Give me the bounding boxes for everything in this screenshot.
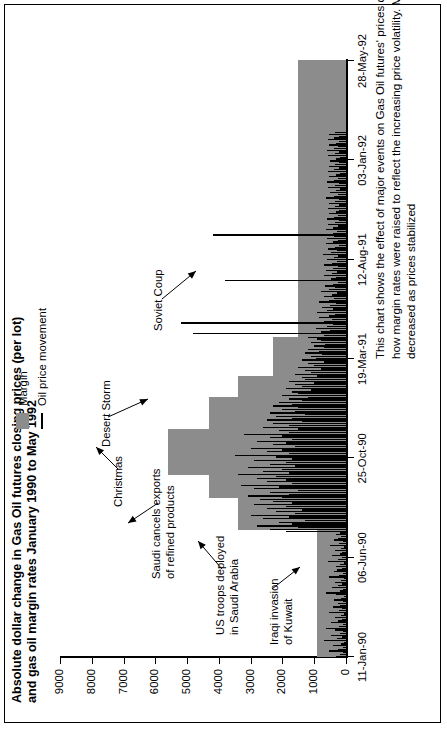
price-movement-bar [321,291,346,292]
price-movement-bar [279,402,346,403]
price-movement-bar [289,472,346,473]
price-movement-bar [273,405,346,406]
price-movement-bar [314,365,346,366]
price-movement-bar [292,483,346,484]
price-movement-bar [295,374,346,375]
price-movement-bar [308,349,346,350]
x-axis-tick [348,557,354,558]
price-movement-bar [338,538,346,539]
price-movement-bar [225,280,346,281]
plot-area [60,61,346,657]
price-movement-bar [335,222,346,223]
price-movement-bar [305,352,346,353]
price-movement-bar [340,591,346,592]
price-movement-bar [311,342,346,343]
price-movement-bar [339,575,346,576]
price-movement-bar [326,270,346,271]
price-movement-bar [298,367,346,368]
y-axis-tick-label: 6000 [148,669,160,709]
x-axis-tick [348,60,354,61]
price-movement-bar [343,631,346,632]
x-axis-tick [348,457,354,458]
y-axis-tick [92,657,93,664]
y-axis-tick-label: 3000 [244,669,256,709]
price-movement-bar [324,264,346,265]
price-movement-bar [340,532,346,533]
price-movement-bar [292,391,346,392]
price-movement-bar [341,643,346,644]
price-movement-bar [337,638,346,639]
price-movement-bar [341,580,346,581]
price-movement-bar [302,377,346,378]
price-movement-bar [340,188,346,189]
price-movement-bar [337,569,346,570]
price-movement-bar [263,518,346,519]
price-movement-bar [333,268,346,269]
price-movement-bar [289,494,346,495]
price-movement-bar [340,605,346,606]
price-movement-bar [339,141,346,142]
price-movement-bar [282,449,346,450]
price-movement-bar [329,315,346,316]
price-movement-bar [329,300,346,301]
price-movement-bar [324,347,346,348]
price-movement-bar [241,485,346,486]
price-movement-bar [326,197,346,198]
price-movement-bar [338,146,346,147]
price-movement-bar [311,372,346,373]
y-axis-tick-label: 9000 [53,669,65,709]
price-movement-bar [334,257,346,258]
price-movement-bar [328,248,346,249]
price-movement-bar [339,610,346,611]
price-movement-bar [319,351,346,352]
price-movement-bar [314,382,346,383]
price-movement-bar [270,529,346,530]
price-movement-bar [333,606,346,607]
price-movement-bar [329,289,346,290]
price-movement-bar [343,647,346,648]
y-axis-tick [282,657,283,664]
y-axis-tick [60,657,61,664]
price-movement-bar [292,418,346,419]
price-movement-bar [344,613,346,614]
price-movement-bar [322,354,346,355]
price-movement-bar [341,615,346,616]
x-axis-tick [348,159,354,160]
price-movement-bar [263,471,346,472]
price-movement-bar [332,587,346,588]
price-movement-bar [254,504,346,505]
chart-page: Absolute dollar change in Gas Oil future… [0,0,447,729]
price-movement-bar [257,478,346,479]
price-movement-bar [333,284,346,285]
price-movement-bar [335,201,346,202]
price-movement-bar [342,636,346,637]
price-movement-bar [257,441,346,442]
price-movement-bar [335,617,346,618]
price-movement-bar [336,143,346,144]
price-movement-bar [330,305,346,306]
price-movement-bar [248,495,347,496]
price-movement-bar [337,250,346,251]
price-movement-bar [276,511,346,512]
price-movement-bar [328,139,346,140]
x-axis-tick-label: 28-May-92 [356,26,368,96]
price-movement-bar [314,345,346,346]
price-movement-bar [335,153,346,154]
price-movement-bar [343,652,346,653]
price-movement-bar [181,322,346,323]
oil-price-series [60,61,346,657]
chart-annotation: Saudi cancels exports of refined product… [150,468,177,579]
price-movement-bar [334,169,346,170]
price-movement-bar [341,598,346,599]
price-movement-bar [340,157,346,158]
price-movement-bar [282,469,346,470]
price-movement-bar [298,428,346,429]
price-movement-bar [335,582,346,583]
y-axis-tick [219,657,220,664]
price-movement-bar [329,176,346,177]
chart-annotation: Soviet Coup [152,269,166,331]
price-movement-bar [329,213,346,214]
price-movement-bar [324,361,346,362]
price-movement-bar [339,626,346,627]
price-movement-bar [337,261,346,262]
